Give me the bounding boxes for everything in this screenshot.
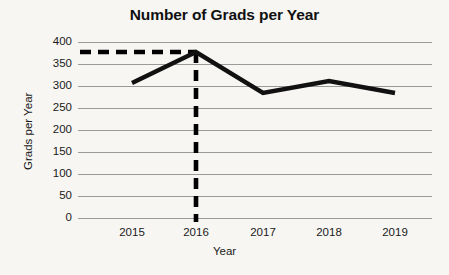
x-axis-title: Year (0, 245, 449, 257)
xtick-label-2018: 2018 (299, 226, 359, 238)
xtick-label-2016: 2016 (166, 226, 226, 238)
ytick-label-100: 100 (32, 168, 72, 179)
xtick-label-2017: 2017 (233, 226, 293, 238)
gridlines (78, 42, 432, 218)
ytick-label-400: 400 (32, 36, 72, 47)
ytick-label-250: 250 (32, 102, 72, 113)
xtick-label-2015: 2015 (102, 226, 162, 238)
ytick-label-50: 50 (32, 190, 72, 201)
ytick-label-200: 200 (32, 124, 72, 135)
y-axis-title: Grads per Year (22, 93, 34, 170)
data-line-grads-per-year (132, 52, 395, 93)
ytick-label-300: 300 (32, 80, 72, 91)
ytick-label-350: 350 (32, 58, 72, 69)
chart-container: Number of Grads per Year 400 350 300 250… (0, 0, 449, 275)
ytick-label-150: 150 (32, 146, 72, 157)
ytick-label-0: 0 (32, 212, 72, 223)
xtick-label-2019: 2019 (365, 226, 425, 238)
